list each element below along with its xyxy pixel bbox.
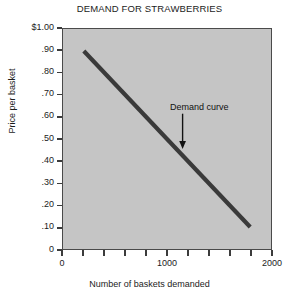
y-tick-label: .30 <box>41 177 54 187</box>
arrow-head <box>179 141 186 149</box>
plot-svg <box>63 29 271 249</box>
x-axis-label: Number of baskets demanded <box>0 279 299 289</box>
y-tick-label: .70 <box>41 88 54 98</box>
x-tick-mark <box>124 250 126 256</box>
x-tick-mark <box>208 250 210 256</box>
chart-title: DEMAND FOR STRAWBERRIES <box>0 3 299 14</box>
x-tick-mark <box>250 250 252 256</box>
x-tick-mark <box>166 250 168 256</box>
y-tick-label: 0 <box>49 244 54 254</box>
y-axis-label: Price per basket <box>7 41 17 161</box>
plot-area: Demand curve <box>62 28 272 250</box>
x-tick-label: 2000 <box>242 258 299 268</box>
annotation-arrow-icon <box>179 114 186 149</box>
x-tick-mark <box>145 250 147 256</box>
x-tick-mark <box>103 250 105 256</box>
x-tick-mark <box>82 250 84 256</box>
annotation-label-demand-curve: Demand curve <box>170 102 229 112</box>
y-tick-label: .20 <box>41 199 54 209</box>
x-tick-label: 1000 <box>137 258 197 268</box>
demand-chart-figure: DEMAND FOR STRAWBERRIES Price per basket… <box>0 0 299 299</box>
y-tick-label: .10 <box>41 221 54 231</box>
x-tick-mark <box>271 250 273 256</box>
y-tick-label: .60 <box>41 110 54 120</box>
y-tick-label: $1.00 <box>31 22 54 32</box>
y-tick-label: .40 <box>41 155 54 165</box>
x-tick-label: 0 <box>32 258 92 268</box>
x-tick-mark <box>229 250 231 256</box>
x-tick-mark <box>61 250 63 256</box>
y-tick-label: .90 <box>41 44 54 54</box>
y-tick-label: .50 <box>41 133 54 143</box>
y-tick-label: .80 <box>41 66 54 76</box>
demand-curve-line <box>84 51 250 227</box>
series-line-0 <box>84 51 250 227</box>
x-tick-mark <box>187 250 189 256</box>
